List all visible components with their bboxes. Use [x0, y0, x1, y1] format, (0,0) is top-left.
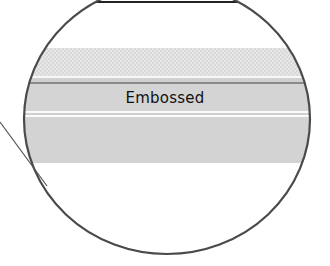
- magnifier-ring-and-leader: [0, 0, 330, 266]
- leader-line: [0, 122, 47, 186]
- magnifier-callout-diagram: Embossed: [0, 0, 330, 266]
- magnifier-circle-outline: [24, 0, 310, 254]
